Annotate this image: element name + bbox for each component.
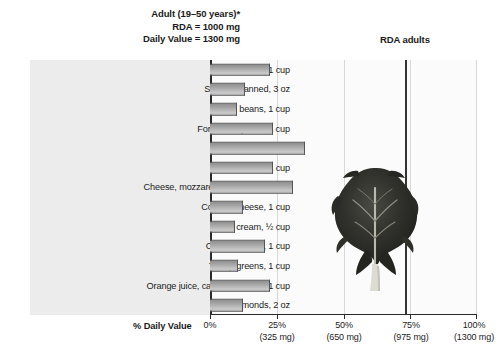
x-tick-label-25-mg: (325 mg) <box>246 332 308 344</box>
x-tick-label-25: 25% (325 mg) <box>246 320 308 343</box>
bar <box>210 162 273 175</box>
x-tick-label-100-mg: (1300 mg) <box>444 332 504 344</box>
x-tick-label-75: 75% (975 mg) <box>380 320 442 343</box>
calcium-daily-value-chart: Adult (19–50 years)* RDA = 1000 mg Daily… <box>0 0 504 353</box>
bar-row: Collard greens, 1 cup <box>0 237 504 257</box>
header-line-age: Adult (19–50 years)* <box>60 8 240 21</box>
rda-adults-label: RDA adults <box>380 34 430 45</box>
x-tick-50 <box>344 315 345 319</box>
bar <box>210 103 237 116</box>
x-tick-0 <box>210 315 211 319</box>
bar-row: Ice cream, ½ cup <box>0 217 504 237</box>
x-axis-title: % Daily Value <box>133 321 192 331</box>
x-tick-75 <box>410 315 411 319</box>
bar <box>210 240 265 253</box>
bar <box>210 142 305 155</box>
x-tick-label-100: 100% (1300 mg) <box>444 320 504 343</box>
bar-row: Cheese, mozzarella or Cheddar, 2 oz <box>0 178 504 198</box>
bar-row: Tofu, 1 cup <box>0 60 504 80</box>
x-tick-label-75-pct: 75% <box>380 320 442 332</box>
bar <box>210 201 243 214</box>
header-line-daily-value: Daily Value = 1300 mg <box>60 33 240 46</box>
bar <box>210 64 270 77</box>
x-tick-label-50-pct: 50% <box>313 320 375 332</box>
chart-header-note: Adult (19–50 years)* RDA = 1000 mg Daily… <box>60 8 240 46</box>
x-tick-label-25-pct: 25% <box>246 320 308 332</box>
x-tick-label-100-pct: 100% <box>444 320 504 332</box>
bar <box>210 279 270 292</box>
bar-row: Orange juice, calcium-fortified, 1 cup <box>0 276 504 296</box>
bar-row: Almonds, 2 oz <box>0 295 504 315</box>
bar <box>210 220 235 233</box>
bar <box>210 260 238 273</box>
x-tick-25 <box>277 315 278 319</box>
bar-row: Milk, 1 cup <box>0 158 504 178</box>
x-tick-100 <box>476 315 477 319</box>
bar-row: Fortified soy milk, 1 cup <box>0 119 504 139</box>
bar-row: Turnip greens, 1 cup <box>0 256 504 276</box>
bar <box>210 83 245 96</box>
bar-row: Yogurt, plain, 1 cup <box>0 138 504 158</box>
header-line-rda: RDA = 1000 mg <box>60 21 240 34</box>
x-tick-label-50-mg: (650 mg) <box>313 332 375 344</box>
bar-row: Salmon, canned, 3 oz <box>0 80 504 100</box>
x-tick-label-75-mg: (975 mg) <box>380 332 442 344</box>
bar-row: Cottage cheese, 1 cup <box>0 197 504 217</box>
bar <box>210 181 293 194</box>
bar <box>210 122 273 135</box>
bar <box>210 299 243 312</box>
x-tick-label-0: 0% <box>196 320 224 332</box>
x-tick-label-0-pct: 0% <box>196 320 224 332</box>
bar-row: Baked beans, 1 cup <box>0 99 504 119</box>
x-tick-label-50: 50% (650 mg) <box>313 320 375 343</box>
